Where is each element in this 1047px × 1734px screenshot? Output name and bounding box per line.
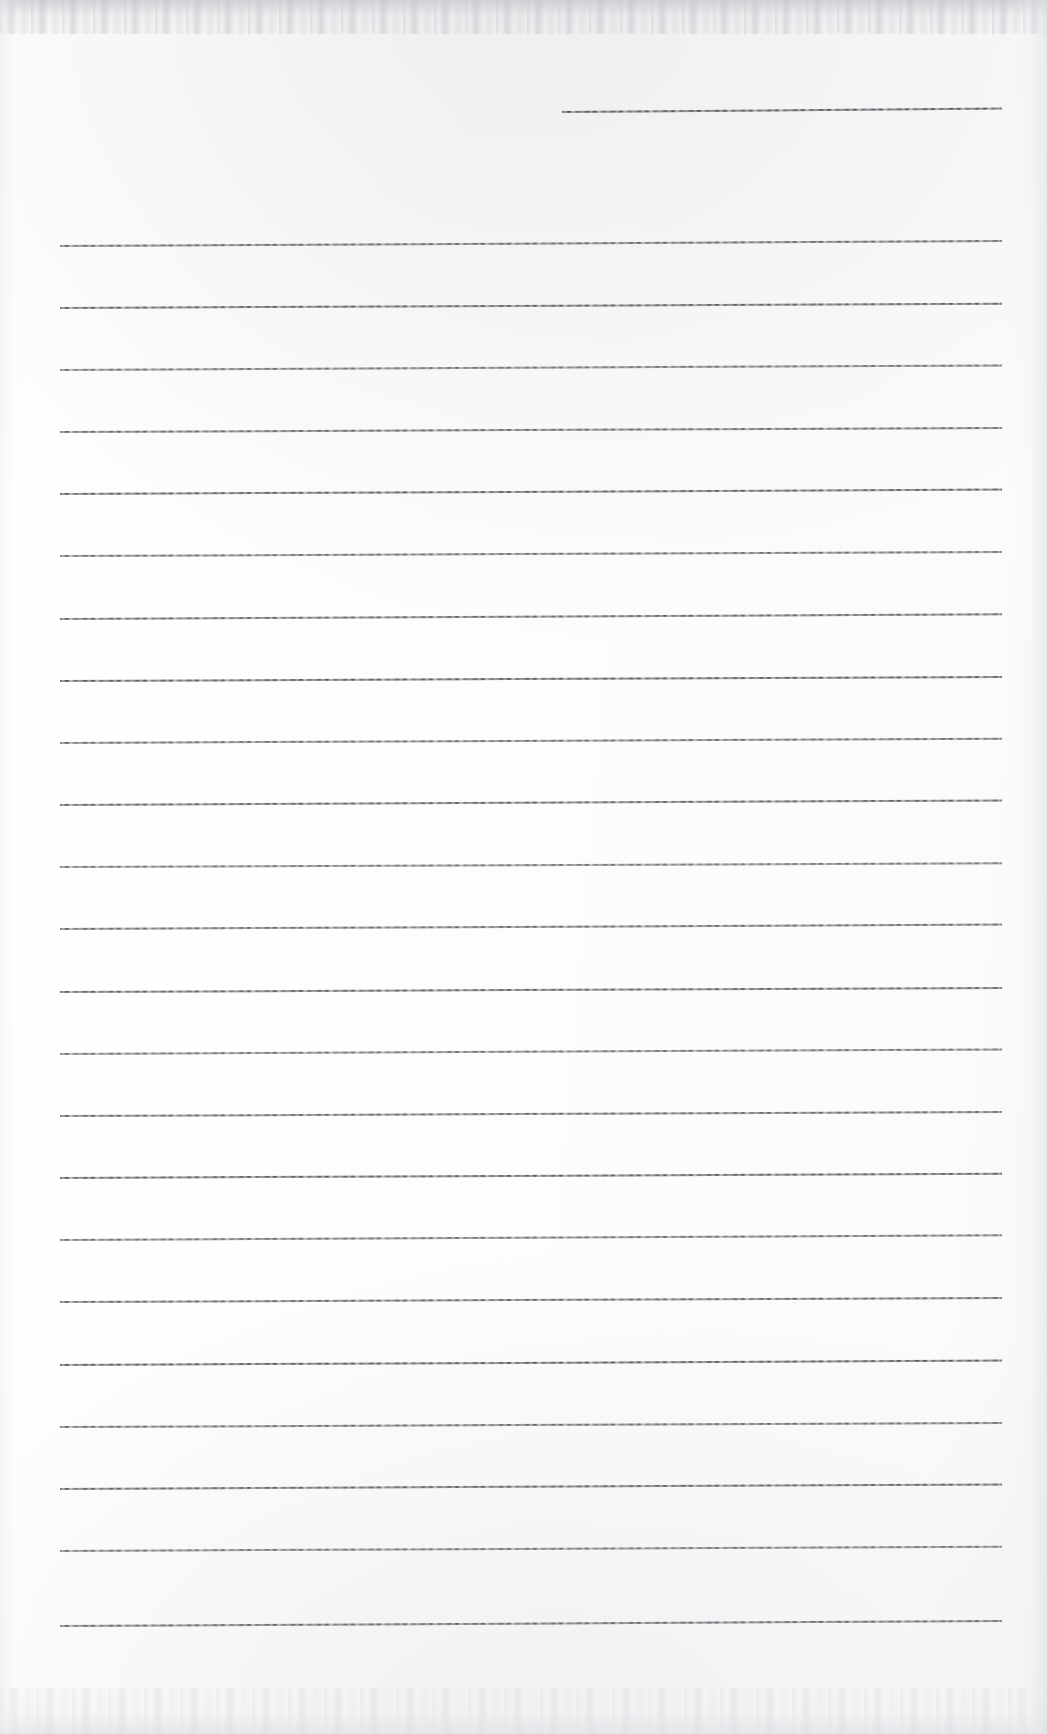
ruled-line: [60, 427, 1002, 433]
ruled-line: [60, 924, 1002, 930]
scanned-page: [0, 0, 1047, 1734]
ruled-line: [60, 1360, 1002, 1366]
ruled-line: [60, 489, 1002, 495]
short-top-rule-rule: [562, 108, 1002, 113]
ruled-line: [60, 738, 1002, 744]
ruled-line: [60, 987, 1002, 993]
scan-edge-left: [0, 0, 26, 1734]
ruled-line: [60, 676, 1002, 682]
scan-edge-top: [0, 0, 1047, 34]
scan-edge-bottom: [0, 1688, 1047, 1734]
ruled-line: [60, 1234, 1002, 1241]
ruled-line: [60, 303, 1002, 309]
ruled-line: [60, 799, 1002, 806]
ruled-line: [60, 1048, 1002, 1055]
ruled-line: [60, 862, 1002, 868]
scan-edge-right: [1007, 0, 1047, 1734]
ruled-line: [60, 1620, 1002, 1627]
ruled-line: [60, 240, 1002, 247]
ruled-line: [60, 613, 1002, 620]
ruled-line: [60, 1483, 1002, 1490]
ruled-line: [60, 1111, 1002, 1117]
ruled-line: [60, 364, 1002, 371]
ruled-line: [60, 1297, 1002, 1303]
ruled-line: [60, 551, 1002, 557]
ruled-line: [60, 1546, 1002, 1552]
ruled-line: [60, 1422, 1002, 1428]
ruled-line: [60, 1173, 1002, 1179]
